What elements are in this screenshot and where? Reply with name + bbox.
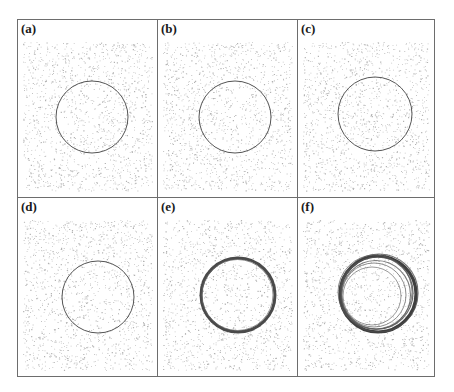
panel-e: (e)	[158, 198, 297, 376]
panel-d: (d)	[18, 198, 157, 376]
noise-field-d	[18, 198, 157, 376]
noise-field-b	[158, 20, 297, 197]
panel-label-b: (b)	[161, 21, 177, 37]
noise-field-a	[18, 20, 157, 197]
panel-c: (c)	[298, 20, 434, 197]
panel-a: (a)	[18, 20, 157, 197]
panel-label-d: (d)	[21, 199, 37, 215]
noise-field-c	[298, 20, 434, 197]
noise-field-f	[298, 198, 434, 376]
panel-b: (b)	[158, 20, 297, 197]
figure-grid: (a) (b) (c) (d) (e) (f)	[17, 19, 435, 377]
panel-label-e: (e)	[161, 199, 175, 215]
noise-field-e	[158, 198, 297, 376]
panel-label-a: (a)	[21, 21, 36, 37]
panel-label-f: (f)	[301, 199, 314, 215]
panel-f: (f)	[298, 198, 434, 376]
panel-label-c: (c)	[301, 21, 315, 37]
